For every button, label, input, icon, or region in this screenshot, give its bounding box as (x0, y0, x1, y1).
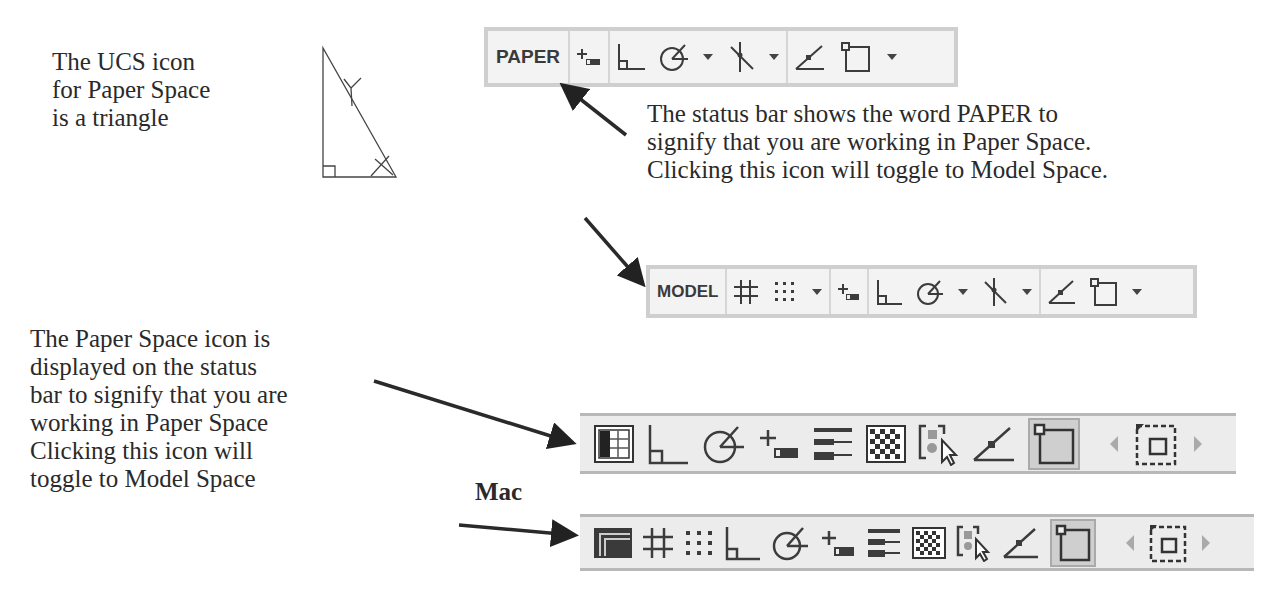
snap-icon[interactable] (773, 280, 797, 304)
view-group (1041, 269, 1149, 314)
viewport-icon[interactable] (1089, 277, 1119, 307)
zoom-window-icon[interactable] (1134, 422, 1178, 466)
viewport-icon (1033, 423, 1075, 465)
ortho-icon[interactable] (875, 278, 903, 306)
dynamic-input-icon[interactable] (820, 526, 856, 560)
dropdown-icon[interactable] (1131, 287, 1143, 297)
lineweight-icon[interactable] (812, 424, 854, 464)
grid-snap-group (727, 269, 831, 314)
zoom-window-icon[interactable] (1148, 523, 1188, 563)
scroll-left-icon[interactable] (1122, 533, 1138, 553)
mac-label: Mac (475, 478, 522, 506)
paper-space-icon-caption: The Paper Space icon is displayed on the… (30, 325, 288, 493)
viewport-icon (1055, 524, 1091, 562)
scroll-right-icon[interactable] (1190, 434, 1206, 454)
model-space-label: MODEL (657, 282, 718, 302)
scroll-right-icon[interactable] (1198, 533, 1214, 553)
model-space-toggle[interactable]: MODEL (650, 269, 727, 314)
object-snap-icon[interactable] (1002, 526, 1040, 560)
status-bar-model: MODEL (646, 265, 1197, 318)
dynamic-input-button[interactable] (831, 269, 869, 314)
transparency-icon[interactable] (866, 425, 906, 463)
viewport-button-active[interactable] (1050, 519, 1096, 567)
selection-cycling-icon[interactable] (956, 524, 992, 562)
dynamic-input-icon (837, 280, 861, 304)
status-bar-icons (580, 413, 1236, 474)
dropdown-icon[interactable] (811, 287, 823, 297)
paper-space-icon[interactable] (594, 425, 634, 463)
polar-tracking-icon[interactable] (772, 525, 810, 561)
lineweight-icon[interactable] (866, 526, 902, 560)
polar-tracking-icon[interactable] (702, 423, 746, 465)
dynamic-input-icon[interactable] (758, 424, 800, 464)
ortho-icon[interactable] (646, 423, 690, 465)
drafting-group (869, 269, 1041, 314)
dropdown-icon[interactable] (957, 287, 969, 297)
transparency-icon[interactable] (912, 527, 946, 559)
grid-icon[interactable] (642, 527, 674, 559)
scroll-left-icon[interactable] (1106, 434, 1122, 454)
snap-icon[interactable] (684, 529, 714, 557)
paper-space-icon[interactable] (594, 528, 632, 558)
grid-icon[interactable] (733, 279, 759, 305)
viewport-button-active[interactable] (1028, 418, 1080, 470)
status-bar-caption: The status bar shows the word PAPER to s… (647, 100, 1108, 184)
object-snap-icon[interactable] (972, 424, 1016, 464)
ortho-icon[interactable] (724, 525, 762, 561)
selection-cycling-icon[interactable] (918, 422, 960, 466)
polar-tracking-icon[interactable] (915, 277, 945, 307)
object-snap-icon[interactable] (1047, 278, 1077, 306)
dropdown-icon[interactable] (1021, 287, 1033, 297)
object-snap-tracking-icon[interactable] (981, 277, 1009, 307)
status-bar-icons-mac (580, 514, 1254, 571)
